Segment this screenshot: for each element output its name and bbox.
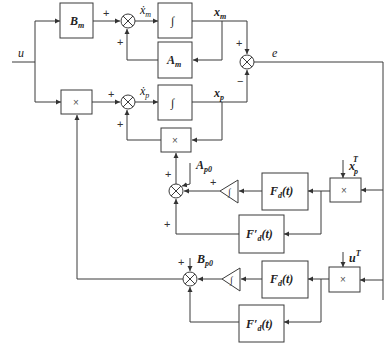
- svg-text:Fd(t): Fd(t): [269, 184, 293, 200]
- integrator-m: ∫: [158, 3, 192, 38]
- svg-text:×: ×: [172, 135, 178, 146]
- xm-label: xm: [213, 5, 226, 21]
- summing-junction-p: [121, 95, 135, 109]
- summing-junction-b: [183, 272, 197, 286]
- svg-text:+: +: [108, 88, 114, 100]
- xp-label: xp: [213, 86, 224, 102]
- block-diagram: u Bm + ẋm ∫ xm + Am + e −: [0, 0, 389, 347]
- bp0-label: Bp0: [196, 252, 213, 268]
- svg-text:Fd(t): Fd(t): [269, 272, 293, 288]
- gain-a: ∫: [220, 180, 238, 203]
- fd-block-a: Fd(t): [262, 173, 308, 210]
- u-transpose-label: uT: [349, 249, 362, 265]
- xp-dot-label: ẋp: [139, 84, 149, 100]
- svg-text:∫: ∫: [170, 14, 175, 28]
- svg-text:×: ×: [73, 97, 79, 108]
- svg-text:×: ×: [341, 185, 347, 196]
- svg-text:+: +: [117, 36, 123, 48]
- input-u-label: u: [18, 46, 24, 60]
- svg-text:+: +: [178, 256, 184, 268]
- block-am: Am: [158, 42, 192, 78]
- error-summing-junction: [240, 55, 254, 69]
- svg-text:+: +: [164, 218, 170, 230]
- multiplier-a: ×: [330, 178, 361, 202]
- svg-text:∫: ∫: [170, 96, 175, 110]
- fd-prime-block-a: F′d(t): [239, 215, 284, 253]
- svg-text:+: +: [210, 176, 216, 188]
- multiplier-x: ×: [161, 128, 191, 152]
- multiplier-b: ×: [329, 267, 360, 292]
- integrator-p: ∫: [158, 85, 192, 120]
- fd-block-b: Fd(t): [262, 261, 308, 298]
- block-bm: Bm: [60, 3, 93, 38]
- xp-transpose-label: xpT: [348, 155, 359, 176]
- gain-b: ∫: [222, 268, 240, 291]
- ap0-label: Ap0: [195, 158, 212, 174]
- multiplier-u: ×: [61, 90, 92, 114]
- summing-junction-a: [169, 184, 183, 198]
- svg-text:−: −: [237, 75, 243, 87]
- summing-junction-m: [121, 14, 135, 28]
- xm-dot-label: ẋm: [139, 3, 151, 19]
- svg-text:+: +: [236, 37, 242, 49]
- fd-prime-block-b: F′d(t): [239, 305, 284, 342]
- svg-text:+: +: [117, 118, 123, 130]
- svg-text:+: +: [103, 7, 109, 19]
- error-e-label: e: [272, 46, 278, 60]
- svg-text:+: +: [165, 168, 171, 180]
- svg-text:×: ×: [340, 274, 346, 285]
